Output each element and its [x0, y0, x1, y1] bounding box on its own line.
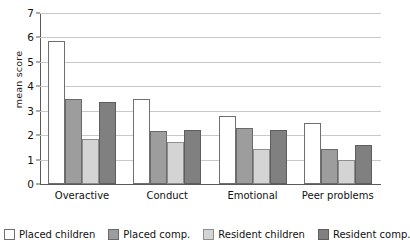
bar-group [133, 13, 201, 184]
bar [236, 128, 253, 184]
legend-item: Placed comp. [108, 229, 190, 240]
legend-swatch [203, 229, 214, 240]
y-axis-tick-mark [36, 37, 40, 38]
axis-baseline [40, 184, 381, 185]
y-axis-tick-label: 0 [27, 178, 34, 190]
y-axis-tick-label: 5 [27, 56, 34, 68]
y-axis-tick-label: 6 [27, 31, 34, 43]
bar [321, 149, 338, 184]
y-axis-tick-mark [36, 110, 40, 111]
y-axis-tick-label: 2 [27, 129, 34, 141]
bar [48, 41, 65, 184]
y-axis-tick-label: 3 [27, 105, 34, 117]
bar [167, 142, 184, 184]
legend-label: Placed children [19, 229, 95, 240]
legend-swatch [318, 229, 329, 240]
x-axis-category-label: Peer problems [284, 190, 392, 201]
bar [99, 102, 116, 184]
y-axis-tick-mark [36, 159, 40, 160]
y-axis-tick-mark [36, 13, 40, 14]
bar [219, 116, 236, 184]
legend-item: Resident children [203, 229, 305, 240]
y-axis-tick-mark [36, 184, 40, 185]
legend-swatch [4, 229, 15, 240]
y-axis-tick-label: 1 [27, 154, 34, 166]
legend-swatch [108, 229, 119, 240]
plot-area: 76543210 [40, 13, 381, 184]
y-axis-title: mean score [13, 30, 24, 130]
y-axis-tick-mark [36, 86, 40, 87]
bar [184, 130, 201, 184]
legend-label: Placed comp. [123, 229, 190, 240]
y-axis-tick-label: 4 [27, 80, 34, 92]
bar [133, 99, 150, 185]
bar [304, 123, 321, 184]
y-axis-tick-mark [36, 61, 40, 62]
bar [82, 139, 99, 184]
legend: Placed childrenPlaced comp.Resident chil… [4, 226, 383, 242]
legend-label: Resident children [218, 229, 305, 240]
y-axis-tick-mark [36, 135, 40, 136]
legend-label: Resident comp. [333, 229, 410, 240]
bar-group [304, 13, 372, 184]
bar [355, 145, 372, 184]
bar [65, 99, 82, 185]
y-axis-tick-label: 7 [27, 7, 34, 19]
bar-group [219, 13, 287, 184]
bar [338, 160, 355, 184]
bar-group [48, 13, 116, 184]
legend-item: Resident comp. [318, 229, 410, 240]
bar [253, 149, 270, 184]
bar [150, 131, 167, 184]
bar [270, 130, 287, 184]
legend-item: Placed children [4, 229, 95, 240]
